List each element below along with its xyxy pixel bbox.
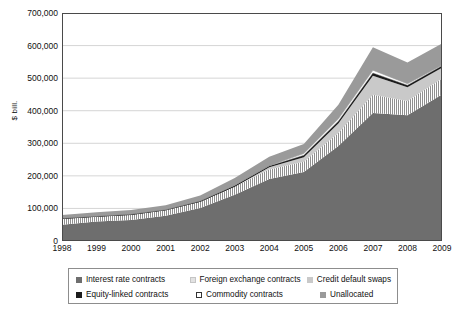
legend-item-unallocated[interactable]: Unallocated	[320, 290, 373, 299]
chart-figure: $ bill. 0100,000200,000300,000400,000500…	[0, 0, 457, 312]
legend-item-commodity-contracts[interactable]: Commodity contracts	[196, 290, 320, 299]
x-tick-label: 2001	[156, 243, 175, 253]
legend-swatch-interest-rate-contracts	[76, 277, 82, 283]
legend-swatch-unallocated	[320, 292, 326, 298]
legend-row-2: Equity-linked contracts Commodity contra…	[76, 287, 391, 302]
legend-label-commodity-contracts: Commodity contracts	[206, 290, 283, 299]
stacked-area-svg	[62, 13, 442, 241]
legend-item-credit-default-swaps[interactable]: Credit default swaps	[307, 275, 391, 284]
legend-swatch-credit-default-swaps	[307, 277, 313, 283]
x-tick-label: 2005	[294, 243, 313, 253]
x-tick-label: 1998	[53, 243, 72, 253]
chart-legend: Interest rate contracts Foreign exchange…	[68, 268, 398, 304]
x-axis-tick-labels: 1998199920002001200220032004200520062007…	[62, 243, 442, 257]
legend-swatch-commodity-contracts	[196, 292, 202, 298]
x-tick-label: 2003	[225, 243, 244, 253]
y-axis-tick-labels: 0100,000200,000300,000400,000500,000600,…	[6, 0, 58, 312]
x-tick-label: 2000	[122, 243, 141, 253]
legend-row-1: Interest rate contracts Foreign exchange…	[76, 272, 391, 287]
legend-label-interest-rate-contracts: Interest rate contracts	[86, 275, 165, 284]
y-tick-label: 600,000	[10, 41, 58, 51]
x-tick-label: 2009	[433, 243, 452, 253]
legend-label-credit-default-swaps: Credit default swaps	[317, 275, 391, 284]
y-tick-label: 100,000	[10, 203, 58, 213]
y-tick-label: 400,000	[10, 106, 58, 116]
y-tick-label: 200,000	[10, 171, 58, 181]
plot-area	[62, 13, 442, 241]
legend-item-equity-linked-contracts[interactable]: Equity-linked contracts	[76, 290, 196, 299]
legend-label-unallocated: Unallocated	[330, 290, 373, 299]
y-tick-label: 700,000	[10, 8, 58, 18]
x-tick-label: 1999	[87, 243, 106, 253]
y-tick-label: 500,000	[10, 73, 58, 83]
x-tick-label: 2006	[329, 243, 348, 253]
x-tick-label: 2004	[260, 243, 279, 253]
legend-swatch-foreign-exchange-contracts	[190, 277, 196, 283]
legend-label-foreign-exchange-contracts: Foreign exchange contracts	[200, 275, 301, 284]
legend-swatch-equity-linked-contracts	[76, 292, 82, 298]
x-tick-label: 2008	[398, 243, 417, 253]
y-tick-label: 0	[10, 236, 58, 246]
legend-item-foreign-exchange-contracts[interactable]: Foreign exchange contracts	[190, 275, 307, 284]
legend-item-interest-rate-contracts[interactable]: Interest rate contracts	[76, 275, 190, 284]
y-tick-label: 300,000	[10, 138, 58, 148]
x-tick-label: 2007	[363, 243, 382, 253]
legend-label-equity-linked-contracts: Equity-linked contracts	[86, 290, 168, 299]
x-tick-label: 2002	[191, 243, 210, 253]
